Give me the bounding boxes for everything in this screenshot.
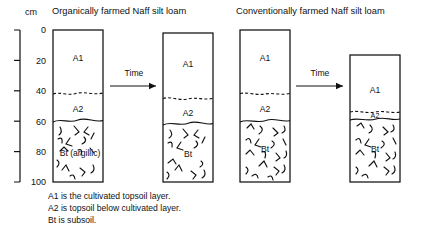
time-arrow-conventional: Time [296,68,343,89]
horizon-label-bt: Bt [261,144,270,154]
axis-tick-label-20: 20 [36,56,46,66]
soil-column-conventional-after: A1 A2 Bt [350,55,400,182]
horizon-label-bt: Bt (argillic) [60,148,101,158]
depth-axis: cm 0 20 40 60 80 100 [14,7,46,187]
horizon-label-a1: A1 [73,53,84,63]
soil-column-organic-before: A1 A2 Bt (argillic) [53,30,103,182]
axis-tick-label-40: 40 [36,86,46,96]
caption-line-2: A2 is topsoil below cultivated layer. [48,203,181,213]
horizon-label-a2: A2 [73,104,84,114]
horizon-label-bt: Bt [184,149,193,159]
panel-title-organic: Organically farmed Naff silt loam [52,6,186,16]
axis-spine [14,30,20,182]
soil-column-organic-after: A1 A2 Bt [163,33,213,182]
horizon-label-bt: Bt [371,144,380,154]
arrow-head [336,83,343,89]
axis-tick-label-100: 100 [31,177,46,187]
soil-column-conventional-before: A1 A2 Bt [240,30,290,182]
caption-block: A1 is the cultivated topsoil layer. A2 i… [48,191,181,225]
arrow-head [149,83,156,89]
panel-title-conventional: Conventionally farmed Naff silt loam [236,6,385,16]
horizon-label-a2: A2 [183,108,194,118]
horizon-label-a1: A1 [183,59,194,69]
caption-line-1: A1 is the cultivated topsoil layer. [48,191,170,201]
time-arrow-label: Time [125,68,144,78]
axis-tick-label-0: 0 [41,25,46,35]
time-arrow-label: Time [311,68,330,78]
soil-profile-diagram: cm 0 20 40 60 80 100 Organically farmed … [0,0,423,226]
axis-unit-label: cm [25,7,37,17]
axis-tick-label-60: 60 [36,117,46,127]
horizon-label-a1: A1 [260,53,271,63]
axis-tick-label-80: 80 [36,147,46,157]
caption-line-3: Bt is subsoil. [48,215,96,225]
horizon-label-a2: A2 [371,111,380,120]
horizon-label-a1: A1 [370,85,381,95]
horizon-label-a2: A2 [260,104,271,114]
time-arrow-organic: Time [110,68,156,89]
